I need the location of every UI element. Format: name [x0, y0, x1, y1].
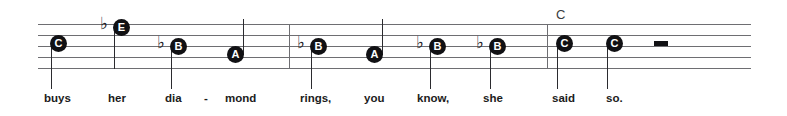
note-b-flat-4-stem — [490, 47, 491, 89]
note-b-flat-1-flat-icon: ♭ — [157, 34, 165, 51]
staff-line-2 — [38, 35, 751, 36]
note-e-flat-head: E — [113, 19, 130, 36]
lyric-mond: mond — [225, 93, 256, 105]
staff-line-4 — [38, 57, 751, 58]
note-c-2-head: C — [556, 35, 573, 52]
note-e-flat-flat-icon: ♭ — [100, 15, 108, 32]
note-a-2-stem — [382, 19, 383, 55]
note-c-head: C — [50, 35, 67, 52]
note-a-1-stem — [243, 19, 244, 55]
note-a-1-head: A — [227, 46, 244, 63]
note-b-flat-3-flat-icon: ♭ — [416, 34, 424, 51]
lyric-so: so. — [606, 93, 623, 105]
note-b-flat-1-stem — [171, 47, 172, 89]
note-e-flat-stem — [114, 28, 115, 69]
sheet-music-system: C C♭E♭BA♭BA♭B♭BCC buysherdiamondrings,yo… — [0, 0, 787, 116]
barline-2 — [547, 24, 548, 69]
staff-line-3 — [38, 46, 751, 47]
staff-line-1 — [38, 24, 751, 25]
lyric-said: said — [552, 93, 575, 105]
lyric-you: you — [364, 93, 384, 105]
note-b-flat-3-stem — [430, 47, 431, 89]
barline-1 — [289, 24, 290, 69]
lyric-her: her — [108, 93, 126, 105]
half-rest — [654, 41, 668, 46]
lyric-hyphen-dia-mond: - — [204, 93, 208, 105]
note-c-3-stem — [607, 44, 608, 89]
note-b-flat-2-head: B — [310, 38, 327, 55]
note-c-3-head: C — [606, 35, 623, 52]
note-b-flat-2-flat-icon: ♭ — [297, 34, 305, 51]
lyric-know: know, — [417, 93, 449, 105]
lyric-she: she — [483, 93, 503, 105]
note-b-flat-1-head: B — [170, 38, 187, 55]
lyric-buys: buys — [44, 93, 71, 105]
note-c-stem — [51, 44, 52, 89]
note-b-flat-3-head: B — [429, 38, 446, 55]
lyric-dia: dia — [165, 93, 182, 105]
note-a-2-head: A — [366, 46, 383, 63]
staff-line-5 — [38, 68, 751, 69]
chord-symbol-c: C — [556, 8, 565, 21]
lyric-rings: rings, — [300, 93, 331, 105]
note-b-flat-4-head: B — [489, 38, 506, 55]
note-b-flat-4-flat-icon: ♭ — [476, 34, 484, 51]
note-b-flat-2-stem — [311, 47, 312, 89]
note-c-2-stem — [557, 44, 558, 89]
